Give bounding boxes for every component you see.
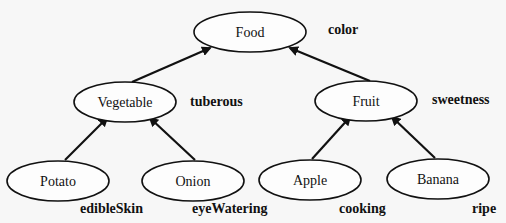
attribute-label: edibleSkin — [80, 201, 143, 216]
attribute-label: sweetness — [432, 92, 490, 107]
node-label: Onion — [176, 174, 211, 189]
attribute-label: eyeWatering — [192, 201, 267, 216]
node-onion: OnioneyeWatering — [142, 161, 267, 216]
node-food: Foodcolor — [194, 12, 358, 52]
node-label: Vegetable — [97, 95, 152, 110]
class-nodes: FoodcolorVegetabletuberousFruitsweetness… — [7, 12, 496, 216]
node-apple: Applecooking — [259, 160, 386, 216]
node-label: Food — [236, 25, 265, 40]
attribute-label: color — [328, 22, 358, 37]
edge-apple-to-fruit — [312, 117, 350, 159]
edge-potato-to-vegetable — [65, 118, 107, 160]
attribute-label: ripe — [472, 201, 496, 216]
node-potato: PotatoedibleSkin — [7, 161, 143, 216]
node-banana: Bananaripe — [387, 159, 496, 216]
attribute-label: cooking — [339, 201, 386, 216]
node-label: Apple — [293, 173, 327, 188]
edge-onion-to-vegetable — [150, 118, 195, 160]
node-label: Banana — [417, 172, 460, 187]
class-hierarchy-diagram: FoodcolorVegetabletuberousFruitsweetness… — [0, 0, 506, 223]
node-vegetable: Vegetabletuberous — [74, 82, 243, 122]
edge-fruit-to-food — [290, 48, 370, 81]
node-label: Fruit — [352, 94, 379, 109]
edge-banana-to-fruit — [392, 117, 435, 158]
attribute-label: tuberous — [190, 94, 243, 109]
edge-vegetable-to-food — [132, 48, 210, 82]
node-label: Potato — [40, 174, 76, 189]
node-fruit: Fruitsweetness — [315, 81, 490, 121]
